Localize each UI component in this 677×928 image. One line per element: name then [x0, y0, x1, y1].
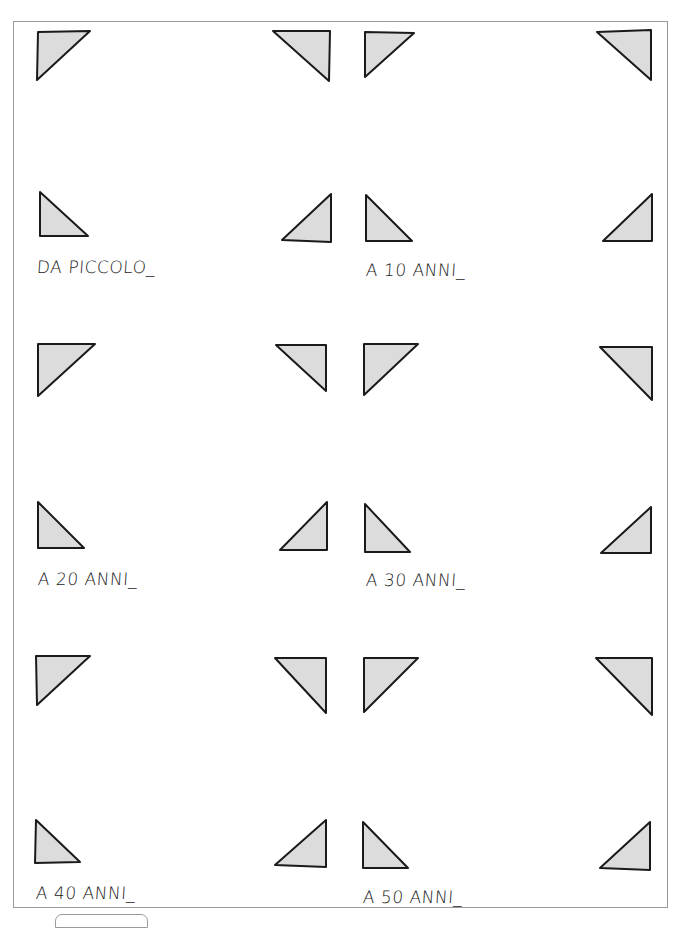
corner-top-left: [37, 31, 90, 80]
panel-6-corners: [363, 658, 652, 870]
corner-bottom-right: [601, 507, 651, 553]
corner-bottom-left: [35, 820, 80, 863]
corner-top-right: [275, 658, 326, 713]
corner-top-right: [276, 345, 326, 391]
panel-5-corners: [35, 656, 326, 867]
panel-caption: A 50 ANNI_: [362, 887, 463, 907]
corner-top-right: [600, 347, 652, 400]
corner-bottom-left: [366, 195, 412, 241]
corner-top-left: [364, 658, 418, 712]
panel-4-corners: [364, 344, 652, 553]
panel-caption: A 10 ANNI_: [365, 260, 466, 280]
panel-caption: A 40 ANNI_: [35, 883, 136, 903]
corner-top-left: [365, 32, 414, 77]
panel-2-corners: [365, 30, 652, 241]
corner-bottom-right: [280, 502, 327, 550]
panel-caption: DA PICCOLO_: [36, 257, 156, 277]
corner-bottom-left: [40, 192, 88, 236]
corner-top-left: [364, 344, 418, 395]
corner-top-right: [273, 31, 330, 81]
panel-3-corners: [38, 344, 327, 550]
corner-bottom-right: [603, 194, 652, 241]
corner-top-left: [36, 656, 90, 705]
panel-1-corners: [37, 31, 331, 242]
corner-bottom-left: [363, 822, 408, 868]
corner-top-left: [38, 344, 95, 396]
corner-bottom-left: [38, 502, 84, 548]
corner-bottom-left: [365, 504, 410, 552]
panel-caption: A 30 ANNI_: [365, 570, 466, 590]
corner-bottom-right: [282, 194, 331, 242]
corner-bottom-right: [600, 822, 650, 870]
panel-caption: A 20 ANNI_: [37, 569, 138, 589]
corner-bottom-right: [275, 820, 326, 867]
corner-top-right: [596, 658, 652, 715]
corner-top-right: [597, 30, 651, 80]
